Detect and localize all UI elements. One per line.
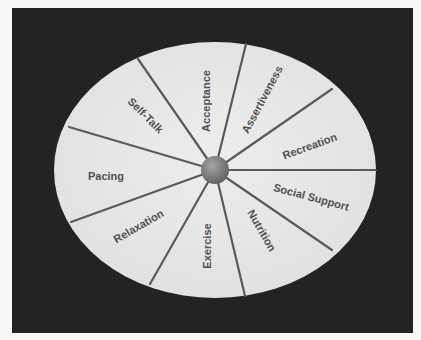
self-management-wheel-diagram: Acceptance Assertiveness Recreation Soci… (0, 0, 421, 340)
label-pacing: Pacing (88, 170, 124, 182)
label-exercise: Exercise (201, 223, 213, 268)
label-acceptance: Acceptance (200, 70, 212, 132)
hub-circle-icon (201, 156, 229, 184)
